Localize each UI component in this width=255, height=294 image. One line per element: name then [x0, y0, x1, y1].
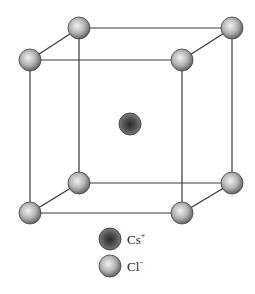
cl-legend-icon — [99, 255, 121, 277]
cl-atom-top-back-right — [221, 17, 243, 39]
legend-label-cl: Cl− — [127, 258, 144, 274]
cs-legend-icon — [99, 228, 121, 250]
legend: Cs+ Cl− — [99, 228, 146, 277]
cs-atom-body-center — [119, 113, 141, 135]
legend-item-cl: Cl− — [99, 255, 144, 277]
legend-item-cs: Cs+ — [99, 228, 146, 250]
cscl-unit-cell-diagram: Cs+ Cl− — [0, 0, 255, 294]
cl-atom-top-front-left — [19, 49, 41, 71]
cl-atom-bottom-front-right — [171, 202, 193, 224]
cl-atom-bottom-back-left — [68, 172, 90, 194]
legend-label-cs: Cs+ — [127, 231, 146, 247]
cl-atom-top-back-left — [68, 17, 90, 39]
front-corner-atoms — [19, 49, 193, 224]
cl-atom-bottom-back-right — [221, 172, 243, 194]
corner-atoms — [68, 17, 243, 194]
cl-atom-bottom-front-left — [19, 202, 41, 224]
cl-atom-top-front-right — [171, 49, 193, 71]
